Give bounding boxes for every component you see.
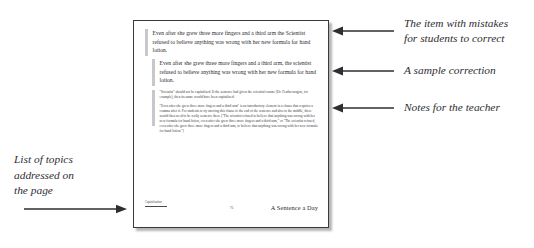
sample-correction-block: Even after she grew three more fingers a… — [152, 59, 324, 86]
teacher-note-paragraph: "Scientist" should not be capitalized. I… — [160, 90, 320, 100]
page-footer: Capitalization 76 A Sentence a Day — [145, 200, 318, 218]
leader-arrow-left-icon — [332, 65, 396, 77]
leader-arrow-left-icon — [332, 25, 396, 37]
annotation-list-of-topics: List of topics addressed on the page — [14, 152, 134, 219]
annotated-page-figure: Even after she grew three more fingers a… — [0, 0, 534, 248]
footer-topics-group: Capitalization — [145, 200, 201, 207]
item-with-mistakes-text: Even after she grew three more fingers a… — [153, 29, 316, 55]
teacher-notes-block: "Scientist" should not be capitalized. I… — [152, 90, 327, 138]
annotation-item-with-mistakes: The item with mistakes for students to c… — [332, 16, 508, 46]
teacher-note-paragraph: "Even after she grew three more fingers … — [160, 104, 320, 135]
page-number: 76 — [230, 206, 234, 210]
annotation-label: The item with mistakes for students to c… — [404, 16, 508, 46]
worksheet-page: Even after she grew three more fingers a… — [133, 20, 329, 228]
page-content-area: Even after she grew three more fingers a… — [134, 21, 328, 227]
annotation-label: A sample correction — [404, 63, 496, 78]
item-with-mistakes-block: Even after she grew three more fingers a… — [145, 29, 323, 56]
block-marker-bar — [152, 90, 155, 126]
teacher-notes-text: "Scientist" should not be capitalized. I… — [160, 90, 320, 138]
annotation-label: Notes for the teacher — [404, 100, 500, 115]
block-marker-bar — [152, 59, 155, 86]
leader-arrow-right-icon — [24, 203, 128, 215]
footer-topics-label: Capitalization — [145, 200, 201, 204]
series-title: A Sentence a Day — [271, 204, 318, 211]
leader-arrow-left-icon — [332, 102, 396, 114]
annotation-teacher-notes: Notes for the teacher — [332, 100, 500, 115]
block-marker-bar — [145, 29, 148, 56]
annotation-label: List of topics addressed on the page — [14, 152, 134, 199]
annotation-sample-correction: A sample correction — [332, 63, 496, 78]
footer-topics-rule — [145, 206, 167, 207]
sample-correction-text: Even after she grew three more fingers a… — [160, 59, 318, 85]
